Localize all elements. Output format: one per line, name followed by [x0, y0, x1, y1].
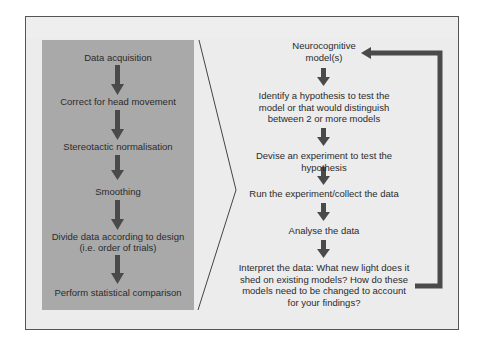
step-line: shed on existing models? How do these	[228, 274, 420, 286]
right-step-run-experiment: Run the experiment/collect the data	[232, 188, 416, 200]
left-step-divide-data-sublabel: (i.e. order of trials)	[42, 242, 194, 253]
down-arrow-icon	[317, 68, 330, 86]
left-step-data-acquisition: Data acquisition	[42, 52, 194, 63]
step-line: model(s)	[243, 52, 405, 64]
down-arrow-icon	[111, 65, 124, 95]
left-step-divide-data: Divide data according to design	[42, 231, 194, 242]
down-arrow-icon	[111, 255, 124, 284]
left-step-statistical-comparison: Perform statistical comparison	[42, 287, 194, 298]
step-line: model or that would distinguish	[243, 102, 405, 114]
step-line: Neurocognitive	[243, 40, 405, 52]
left-step-correct-head-movement: Correct for head movement	[42, 96, 194, 107]
down-arrow-icon	[317, 128, 330, 146]
left-step-smoothing: Smoothing	[42, 186, 194, 197]
right-step-devise-experiment: Devise an experiment to test the hypothe…	[232, 150, 416, 173]
left-step-stereotactic-normalisation: Stereotactic normalisation	[42, 141, 194, 152]
step-line: models need to be changed to account	[228, 285, 420, 297]
down-arrow-icon	[111, 110, 124, 140]
step-line: Interpret the data: What new light does …	[228, 262, 420, 274]
down-arrow-icon	[111, 155, 124, 180]
right-step-analyse-data: Analyse the data	[232, 225, 416, 237]
step-line: Identify a hypothesis to test the	[243, 90, 405, 102]
down-arrow-icon	[317, 203, 330, 221]
step-line: for your findings?	[228, 297, 420, 309]
down-arrow-icon	[111, 200, 124, 230]
down-arrow-icon	[317, 240, 330, 258]
right-step-identify-hypothesis: Identify a hypothesis to test the model …	[243, 90, 405, 125]
right-step-neurocognitive-model: Neurocognitive model(s)	[243, 40, 405, 63]
right-step-interpret-data: Interpret the data: What new light does …	[228, 262, 420, 308]
step-line: between 2 or more models	[243, 113, 405, 125]
